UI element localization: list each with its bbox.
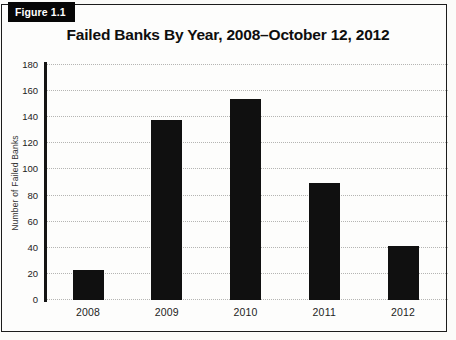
bar-2008 [73, 270, 104, 300]
y-tick-label: 60 [8, 216, 38, 228]
y-tick-label: 0 [8, 294, 38, 306]
gridline [47, 64, 448, 65]
figure-label: Figure 1.1 [15, 6, 66, 18]
x-tick-label: 2008 [58, 306, 118, 318]
bar-2012 [388, 246, 419, 300]
bar-2011 [309, 183, 340, 301]
y-tick-label: 20 [8, 268, 38, 280]
plot-area [47, 65, 448, 300]
y-tick-label: 140 [8, 111, 38, 123]
y-axis-line [44, 62, 47, 302]
x-tick-label: 2011 [294, 306, 354, 318]
y-tick-label: 40 [8, 242, 38, 254]
figure-label-tab: Figure 1.1 [8, 2, 75, 22]
y-axis-tick-labels: 020406080100120140160180 [0, 65, 41, 300]
y-tick-label: 120 [8, 137, 38, 149]
gridline [47, 90, 448, 91]
chart-title: Failed Banks By Year, 2008–October 12, 2… [2, 26, 454, 44]
bar-2010 [230, 99, 261, 300]
x-tick-label: 2012 [373, 306, 433, 318]
y-tick-label: 100 [8, 163, 38, 175]
x-axis-tick-labels: 20082009201020112012 [47, 303, 448, 319]
x-tick-label: 2010 [216, 306, 276, 318]
bar-2009 [151, 120, 182, 300]
y-tick-label: 80 [8, 190, 38, 202]
y-tick-label: 160 [8, 85, 38, 97]
y-tick-label: 180 [8, 59, 38, 71]
x-tick-label: 2009 [137, 306, 197, 318]
